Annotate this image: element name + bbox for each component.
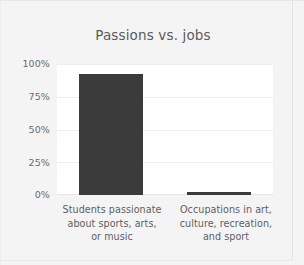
y-axis-tick-label-25: 25%: [6, 158, 50, 168]
y-axis-tick-label-75: 75%: [6, 92, 50, 102]
x-axis-category-label-1-line-2: and sport: [165, 230, 287, 244]
plot-area: [57, 64, 273, 195]
y-axis-tick-label-50: 50%: [6, 125, 50, 135]
x-axis-category-label-1: Occupations in art, culture, recreation,…: [165, 203, 287, 244]
chart-title: Passions vs. jobs: [1, 27, 304, 43]
x-axis-category-label-1-line-1: culture, recreation,: [165, 217, 287, 231]
x-axis-category-label-0-line-0: Students passionate: [51, 203, 173, 217]
x-axis-category-label-0: Students passionate about sports, arts, …: [51, 203, 173, 244]
chart-figure: Passions vs. jobs 100% 75% 50% 25% 0% St…: [0, 0, 304, 265]
y-axis-tick-label-100: 100%: [6, 59, 50, 69]
x-axis-category-label-0-line-2: or music: [51, 230, 173, 244]
y-axis-tick-label-0: 0%: [6, 190, 50, 200]
bar-occupations-in-arts[interactable]: [187, 192, 251, 195]
gridline-100: [57, 64, 273, 65]
x-axis-category-label-1-line-0: Occupations in art,: [165, 203, 287, 217]
x-axis-category-label-0-line-1: about sports, arts,: [51, 217, 173, 231]
bar-students-passionate[interactable]: [79, 74, 143, 195]
